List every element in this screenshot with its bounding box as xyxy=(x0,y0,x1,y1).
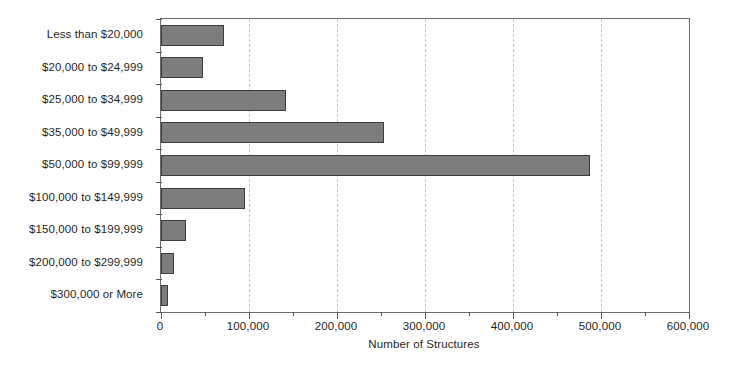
category-label: $150,000 to $199,999 xyxy=(0,213,152,246)
category-label: $25,000 to $34,999 xyxy=(0,83,152,116)
x-axis-tick-label: 600,000 xyxy=(667,320,709,332)
x-axis-tick-major xyxy=(601,312,602,319)
bar-slot xyxy=(161,214,689,247)
category-label: $50,000 to $99,999 xyxy=(0,148,152,181)
x-axis-tick-label: 400,000 xyxy=(491,320,533,332)
x-axis-tick-major xyxy=(689,312,690,319)
x-axis-tick-minor xyxy=(645,312,646,316)
x-axis-tick-major xyxy=(425,312,426,319)
x-axis-tick-minor xyxy=(381,312,382,316)
x-axis-tick-label: 100,000 xyxy=(227,320,269,332)
plot-inner xyxy=(161,19,689,312)
y-axis-tick xyxy=(156,117,162,118)
category-label: $20,000 to $24,999 xyxy=(0,51,152,84)
category-axis-labels: Less than $20,000 $20,000 to $24,999 $25… xyxy=(0,18,152,311)
category-label: $300,000 or More xyxy=(0,279,152,312)
y-axis-tick xyxy=(156,149,162,150)
y-axis-tick xyxy=(156,52,162,53)
bar-slot xyxy=(161,182,689,215)
bar xyxy=(161,220,186,241)
bar xyxy=(161,25,224,46)
x-axis-tick-major xyxy=(161,312,162,319)
x-axis-tick-major xyxy=(337,312,338,319)
bar-slot xyxy=(161,84,689,117)
bar xyxy=(161,90,286,111)
plot-area xyxy=(160,18,690,313)
bar-slot xyxy=(161,52,689,85)
y-axis-tick xyxy=(156,214,162,215)
y-axis-tick xyxy=(156,247,162,248)
x-axis-tick-major xyxy=(513,312,514,319)
bar-slot xyxy=(161,247,689,280)
x-axis-tick-label: 200,000 xyxy=(315,320,357,332)
bar-slot xyxy=(161,280,689,313)
x-axis-tick-minor xyxy=(557,312,558,316)
x-axis-tick-minor xyxy=(205,312,206,316)
bar-series xyxy=(161,19,689,312)
x-axis-tick-major xyxy=(249,312,250,319)
y-axis-tick xyxy=(156,19,162,20)
bar xyxy=(161,253,174,274)
x-axis-tick-minor xyxy=(293,312,294,316)
x-axis-tick-labels: 0100,000200,000300,000400,000500,000600,… xyxy=(160,320,688,336)
y-axis-tick xyxy=(156,84,162,85)
bar-slot xyxy=(161,117,689,150)
category-label: $200,000 to $299,999 xyxy=(0,246,152,279)
bar xyxy=(161,57,203,78)
x-axis-tick-label: 0 xyxy=(157,320,164,332)
y-axis-tick xyxy=(156,279,162,280)
bar-chart: Less than $20,000 $20,000 to $24,999 $25… xyxy=(0,0,742,367)
x-axis-tick-label: 500,000 xyxy=(579,320,621,332)
category-label: $100,000 to $149,999 xyxy=(0,181,152,214)
x-axis-ticks xyxy=(161,312,689,320)
category-label: Less than $20,000 xyxy=(0,18,152,51)
bar xyxy=(161,285,168,306)
bar xyxy=(161,188,245,209)
x-axis-tick-label: 300,000 xyxy=(403,320,445,332)
y-axis-tick xyxy=(156,182,162,183)
bar-slot xyxy=(161,19,689,52)
bar-slot xyxy=(161,149,689,182)
category-label: $35,000 to $49,999 xyxy=(0,116,152,149)
x-axis-tick-minor xyxy=(469,312,470,316)
bar xyxy=(161,155,590,176)
x-axis-title: Number of Structures xyxy=(160,338,688,350)
bar xyxy=(161,122,384,143)
